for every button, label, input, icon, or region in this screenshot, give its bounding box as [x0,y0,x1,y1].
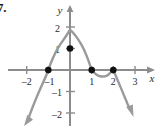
y-axis-label: y [57,4,63,16]
left-tail-arrowhead [24,115,33,126]
figure-container: 7. –2 –1 1 2 3 [0,0,167,134]
y-tick-label--2: –2 [51,109,62,120]
x-tick-label-1: 1 [89,76,94,87]
x-tick-label-2: 2 [111,76,116,87]
marked-point-0-1 [67,45,74,52]
x-axis [8,66,155,73]
x-axis-label: x [149,72,155,84]
x-tick-label-3: 3 [133,76,138,87]
y-tick-label--1: –1 [51,87,62,98]
marked-point-2-0 [110,67,117,74]
x-tick-label--2: –2 [21,76,32,87]
curve-group [24,30,134,126]
polynomial-curve [28,30,130,121]
marked-point--1-0 [45,67,52,74]
y-axis [67,5,74,126]
y-axis-arrowhead [67,5,74,12]
marked-point-1-0 [88,67,95,74]
y-tick-label-2: 2 [55,23,60,34]
graph-plot: –2 –1 1 2 3 2 1 –1 –2 x y [0,0,167,134]
